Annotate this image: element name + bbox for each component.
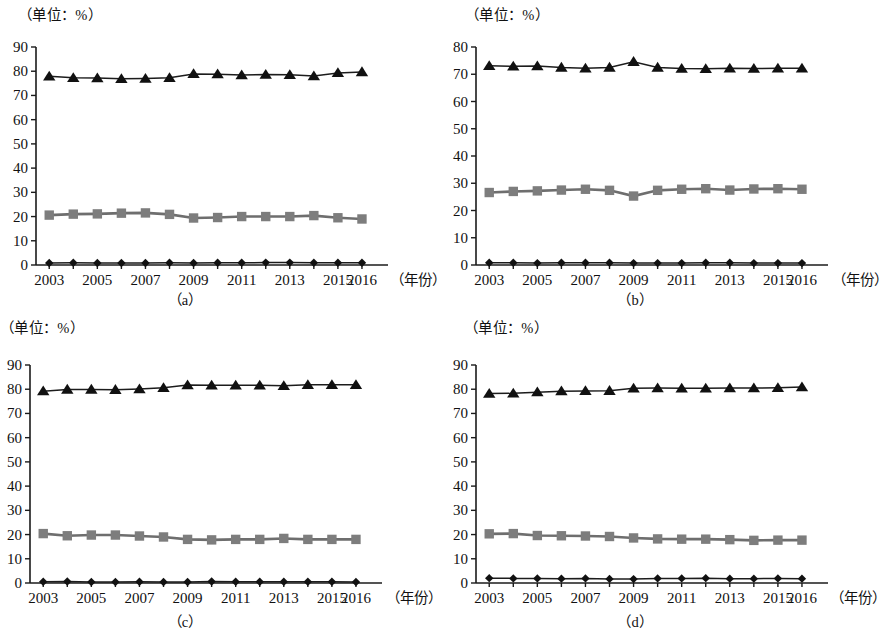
x-tick-label: 2005 <box>76 590 106 606</box>
data-point-square <box>509 187 518 196</box>
data-point-diamond <box>45 259 53 267</box>
y-tick-label: 90 <box>453 357 468 373</box>
data-point-diamond <box>774 574 782 582</box>
year-axis-label-b: （年份） <box>832 268 880 289</box>
data-point-square <box>87 530 96 539</box>
y-tick-label: 40 <box>13 160 28 176</box>
data-point-diamond <box>352 578 360 586</box>
data-point-diamond <box>63 577 71 585</box>
data-point-diamond <box>750 574 758 582</box>
data-point-square <box>117 208 126 217</box>
data-point-square <box>111 530 120 539</box>
y-tick-label: 80 <box>453 39 468 55</box>
data-point-square <box>629 533 638 542</box>
unit-label-c: （单位：%） <box>0 316 84 337</box>
data-point-square <box>69 209 78 218</box>
data-point-diamond <box>629 259 637 267</box>
x-tick-label: 2013 <box>715 590 745 606</box>
x-tick-label: 2016 <box>787 272 818 288</box>
y-tick-label: 50 <box>453 121 468 137</box>
x-tick-label: 2016 <box>347 272 378 288</box>
data-point-square <box>309 211 318 220</box>
y-tick-label: 60 <box>13 112 28 128</box>
data-point-square <box>749 184 758 193</box>
data-point-square <box>141 208 150 217</box>
chart-svg-c: 0102030405060708090200320052007200920112… <box>30 365 382 583</box>
data-point-diamond <box>750 259 758 267</box>
data-point-diamond <box>189 259 197 267</box>
x-tick-label: 2005 <box>522 272 552 288</box>
y-tick-label: 70 <box>13 87 28 103</box>
year-axis-label-c: （年份） <box>386 586 442 607</box>
y-tick-label: 0 <box>21 257 29 273</box>
y-tick-label: 30 <box>7 502 22 518</box>
y-tick-label: 60 <box>453 94 468 110</box>
y-tick-label: 10 <box>453 230 468 246</box>
data-point-square <box>725 535 734 544</box>
chart-svg-b: 0102030405060708020032005200720092011201… <box>476 47 828 265</box>
plot-area-a: 0102030405060708090200320052007200920112… <box>36 47 388 265</box>
plot-area-b: 0102030405060708020032005200720092011201… <box>476 47 828 265</box>
x-tick-label: 2009 <box>619 272 649 288</box>
data-point-square <box>701 534 710 543</box>
data-point-square <box>677 534 686 543</box>
year-axis-label-a: （年份） <box>390 268 446 289</box>
subplot-caption-d: （d） <box>415 610 855 631</box>
subplot-caption-c: （c） <box>0 610 405 631</box>
data-point-diamond <box>141 259 149 267</box>
y-tick-label: 0 <box>461 257 469 273</box>
data-point-diamond <box>677 259 685 267</box>
y-tick-label: 50 <box>13 136 28 152</box>
data-point-square <box>135 531 144 540</box>
data-point-diamond <box>328 578 336 586</box>
x-tick-label: 2013 <box>715 272 745 288</box>
data-point-diamond <box>653 574 661 582</box>
y-tick-label: 90 <box>7 357 22 373</box>
x-tick-label: 2011 <box>667 590 696 606</box>
chart-svg-a: 0102030405060708090200320052007200920112… <box>36 47 388 265</box>
y-tick-label: 40 <box>453 478 468 494</box>
y-tick-label: 50 <box>453 454 468 470</box>
x-tick-label: 2007 <box>124 590 155 606</box>
data-point-diamond <box>677 574 685 582</box>
data-point-square <box>485 188 494 197</box>
data-point-square <box>327 535 336 544</box>
data-point-diamond <box>653 259 661 267</box>
data-point-square <box>213 213 222 222</box>
data-point-square <box>509 529 518 538</box>
y-tick-label: 80 <box>453 381 468 397</box>
y-tick-label: 40 <box>453 148 468 164</box>
data-point-diamond <box>726 574 734 582</box>
data-point-square <box>797 535 806 544</box>
y-tick-label: 80 <box>7 381 22 397</box>
x-tick-label: 2009 <box>619 590 649 606</box>
data-point-diamond <box>702 574 710 582</box>
data-point-diamond <box>183 578 191 586</box>
data-point-square <box>165 210 174 219</box>
x-tick-label: 2007 <box>570 272 601 288</box>
x-tick-label: 2003 <box>474 272 504 288</box>
y-tick-label: 80 <box>13 63 28 79</box>
data-point-square <box>63 531 72 540</box>
unit-label-b: （单位：%） <box>465 3 549 24</box>
data-point-diamond <box>798 259 806 267</box>
y-tick-label: 30 <box>453 502 468 518</box>
data-point-square <box>357 214 366 223</box>
data-point-square <box>207 535 216 544</box>
data-point-triangle <box>483 60 495 70</box>
x-tick-label: 2005 <box>522 590 552 606</box>
data-point-square <box>255 535 264 544</box>
x-tick-label: 2016 <box>341 590 372 606</box>
data-point-square <box>285 212 294 221</box>
data-point-square <box>653 534 662 543</box>
data-point-diamond <box>533 259 541 267</box>
data-point-square <box>797 185 806 194</box>
data-point-square <box>231 535 240 544</box>
y-tick-label: 50 <box>7 454 22 470</box>
data-point-square <box>677 185 686 194</box>
y-tick-label: 0 <box>15 575 23 591</box>
x-tick-label: 2003 <box>474 590 504 606</box>
data-point-diamond <box>93 259 101 267</box>
y-tick-label: 30 <box>13 184 28 200</box>
data-point-diamond <box>581 574 589 582</box>
